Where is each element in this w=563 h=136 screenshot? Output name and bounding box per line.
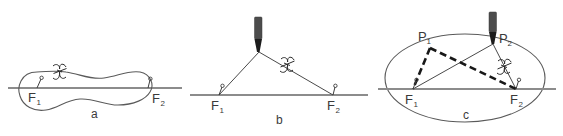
label-f2-subscript-c: 2 [519,100,524,109]
panel-caption-a: a [91,107,98,121]
label-p1-c: P [418,29,427,44]
label-f2-subscript-a: 2 [161,99,166,108]
label-f1-subscript-b: 1 [220,106,225,115]
label-f1-a: F [28,90,36,105]
thread-p1-to-f2-c [430,48,516,89]
pin-f2-icon-c [516,78,521,89]
label-p2-subscript-c: 2 [508,39,513,48]
label-f2-c: F [510,92,518,107]
panel-b-taut-string-triangle: F 1 F 2 b [185,0,375,136]
panel-c-completed-ellipse: P 1 P 2 F 1 F 2 c [368,0,563,136]
label-p1-subscript-c: 1 [427,37,432,46]
pencil-icon-c [489,12,497,44]
panel-caption-b: b [276,113,283,127]
thread-p2-to-f1-c [413,44,493,89]
label-f2-a: F [152,91,160,106]
label-p2-c: P [499,31,508,46]
figure-root: F 1 F 2 a [0,0,563,136]
label-f2-b: F [327,98,335,113]
label-f1-subscript-c: 1 [414,100,419,109]
pin-f2-icon-b [333,84,337,95]
pin-f1-icon-a [37,76,43,88]
label-f1-b: F [211,98,219,113]
label-f2-subscript-b: 2 [336,106,341,115]
thread-pencil-to-f2-b [259,52,333,95]
thread-f1-to-pencil-b [219,52,259,95]
pencil-icon-b [255,17,263,52]
label-f1-c: F [405,92,413,107]
string-knot-icon-c [497,59,512,74]
panel-a-loose-string: F 1 F 2 a [0,0,190,136]
string-knot-icon-b [280,57,295,72]
label-f1-subscript-a: 1 [37,98,42,107]
panel-caption-c: c [463,108,469,122]
